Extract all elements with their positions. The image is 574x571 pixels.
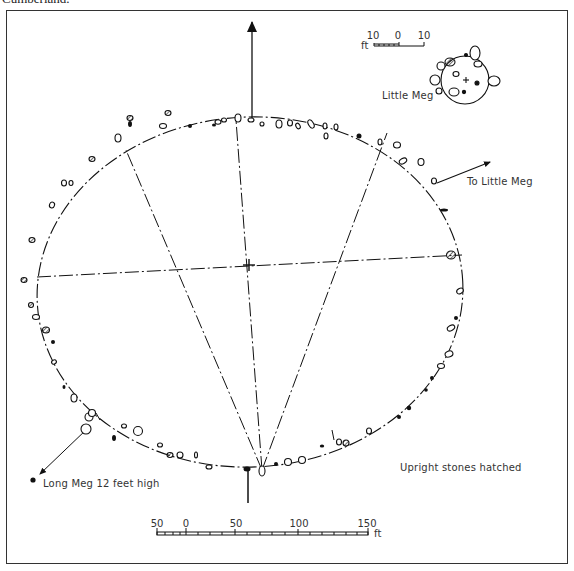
little-meg-label: Little Meg [382,90,433,101]
small-scale-tick-label: 10 [418,30,431,41]
main-scale-tick-label: 50 [151,518,164,529]
pointer-tick [332,430,334,440]
stones [21,111,464,477]
little-meg-inset [430,46,500,104]
legend-note: Upright stones hatched [400,462,522,473]
long-meg-label: Long Meg 12 feet high [43,478,160,489]
long-meg-arrow-icon [30,428,88,483]
to-little-meg-label: To Little Meg [467,176,533,187]
small-scale-tick-label: 0 [395,30,401,41]
small-scale-unit: ft [361,40,369,51]
main-scale-unit: ft [374,528,382,539]
main-scale-bar [157,528,368,535]
fallen-stones [51,121,458,472]
center-cross-icon [243,259,255,271]
main-scale-tick-label: 0 [183,518,189,529]
main-scale-tick-label: 100 [289,518,308,529]
main-scale-tick-label: 50 [230,518,243,529]
small-scale-bar [374,42,424,46]
